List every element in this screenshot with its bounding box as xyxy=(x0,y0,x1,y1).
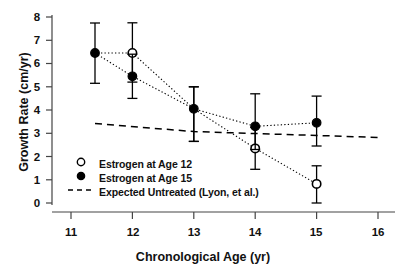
axes-group xyxy=(46,15,395,219)
error-bars-estrogen-12 xyxy=(127,23,321,203)
series-estrogen-age-15 xyxy=(90,23,322,150)
series-estrogen-age-12 xyxy=(101,23,322,203)
error-bars-estrogen-15 xyxy=(90,23,322,150)
x-axis-ticks xyxy=(71,212,378,219)
markers-estrogen-15 xyxy=(91,49,321,131)
series-expected-untreated xyxy=(95,124,378,138)
growth-rate-chart: Growth Rate (cm/yr) Chronological Age (y… xyxy=(0,0,406,274)
legend-filled-circle-icon xyxy=(77,172,84,179)
legend-open-circle-icon xyxy=(77,158,84,165)
markers-estrogen-12 xyxy=(128,49,321,188)
plot-canvas xyxy=(0,0,406,274)
y-axis-ticks xyxy=(46,17,52,203)
legend-markers xyxy=(68,158,95,190)
